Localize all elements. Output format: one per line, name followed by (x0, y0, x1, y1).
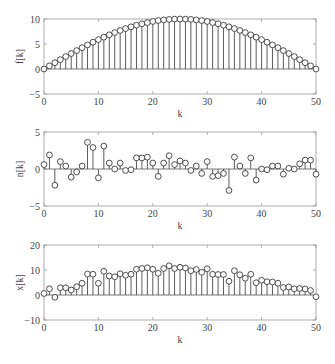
x-axis-label: k (178, 334, 183, 345)
data-point (221, 171, 227, 177)
data-point (215, 173, 221, 179)
data-point (139, 21, 145, 27)
data-point (302, 286, 308, 292)
data-point (193, 267, 199, 273)
data-point (150, 19, 156, 25)
data-point (226, 188, 232, 194)
data-point (183, 16, 189, 22)
data-point (117, 28, 123, 34)
data-point (242, 30, 248, 36)
data-point (199, 171, 205, 177)
y-tick-label: 0 (35, 290, 40, 301)
data-point (52, 182, 58, 188)
x-tick-label: 50 (311, 96, 321, 107)
x-tick-label: 20 (148, 322, 158, 333)
data-point (313, 294, 319, 300)
data-point (237, 272, 243, 278)
data-point (85, 271, 91, 277)
data-point (210, 271, 216, 277)
data-point (226, 278, 232, 284)
data-point (275, 280, 281, 286)
data-point (199, 18, 205, 24)
data-point (63, 163, 69, 169)
data-point (204, 266, 210, 272)
data-point (188, 17, 194, 23)
data-point (286, 51, 292, 57)
data-point (166, 263, 172, 269)
data-point (291, 286, 297, 292)
x-tick-label: 30 (202, 322, 212, 333)
data-point (264, 279, 270, 285)
data-point (199, 269, 205, 275)
x-tick-label: 0 (42, 96, 47, 107)
data-point (215, 21, 221, 27)
y-tick-label: 10 (30, 14, 40, 25)
data-point (226, 24, 232, 30)
x-axis-label: k (178, 220, 183, 231)
y-tick-label: −10 (24, 315, 40, 326)
data-point (57, 159, 63, 165)
data-point (96, 37, 102, 43)
data-point (270, 163, 276, 169)
data-point (232, 268, 238, 274)
data-point (155, 174, 161, 180)
data-point (85, 139, 91, 145)
data-point (188, 168, 194, 174)
data-point (264, 167, 270, 173)
data-point (183, 160, 189, 166)
data-point (101, 34, 107, 40)
data-point (101, 143, 107, 149)
data-point (308, 63, 314, 69)
data-point (270, 42, 276, 48)
data-point (79, 163, 85, 169)
data-point (297, 286, 303, 292)
data-point (253, 280, 259, 286)
data-point (47, 286, 53, 292)
data-point (280, 48, 286, 54)
data-point (248, 271, 254, 277)
y-tick-label: −5 (29, 89, 40, 100)
data-point (96, 280, 102, 286)
data-point (68, 174, 74, 180)
data-point (134, 155, 140, 161)
data-point (177, 16, 183, 22)
x-tick-label: 0 (42, 208, 47, 219)
data-point (270, 279, 276, 285)
data-point (74, 48, 80, 54)
data-point (112, 274, 118, 280)
data-point (221, 22, 227, 28)
x-axis-label: k (178, 108, 183, 119)
data-point (150, 160, 156, 166)
data-point (253, 177, 259, 183)
data-point (74, 169, 80, 175)
data-point (204, 159, 210, 165)
data-point (144, 20, 150, 26)
data-point (63, 54, 69, 60)
data-point (188, 268, 194, 274)
data-point (193, 17, 199, 23)
data-point (96, 175, 102, 181)
data-point (68, 287, 74, 293)
x-tick-label: 40 (257, 322, 267, 333)
data-point (204, 19, 210, 25)
x-tick-label: 40 (257, 208, 267, 219)
data-point (128, 167, 134, 173)
data-point (248, 155, 254, 161)
y-tick-label: 5 (35, 39, 40, 50)
y-tick-label: 0 (35, 64, 40, 75)
x-tick-label: 30 (202, 208, 212, 219)
data-point (90, 271, 96, 277)
data-point (52, 60, 58, 66)
y-tick-label: 0 (35, 164, 40, 175)
y-tick-label: −5 (29, 201, 40, 212)
data-point (308, 157, 314, 163)
x-tick-label: 30 (202, 96, 212, 107)
x-tick-label: 10 (93, 96, 103, 107)
data-point (117, 160, 123, 166)
data-point (90, 145, 96, 151)
y-axis-label: n[k] (14, 161, 25, 178)
data-point (79, 45, 85, 51)
data-point (57, 285, 63, 291)
data-point (286, 284, 292, 290)
data-point (117, 271, 123, 277)
